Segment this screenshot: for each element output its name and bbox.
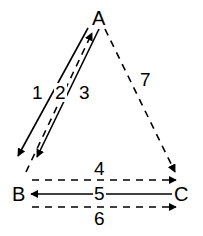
triangle-diagram: A B C 1 2 3 4 5 6 7 <box>0 0 203 236</box>
edge-label-5: 5 <box>93 184 106 203</box>
edge-label-1: 1 <box>31 83 44 102</box>
edge-7-line <box>105 29 175 172</box>
vertex-label-c: C <box>174 184 188 204</box>
edge-label-7: 7 <box>139 70 152 89</box>
vertex-label-a: A <box>92 8 105 28</box>
edge-label-4: 4 <box>93 159 106 178</box>
edge-label-3: 3 <box>78 83 91 102</box>
edge-7-group <box>105 29 175 172</box>
edge-label-2: 2 <box>54 83 67 102</box>
vertex-label-b: B <box>12 184 25 204</box>
edge-label-6: 6 <box>93 209 106 228</box>
